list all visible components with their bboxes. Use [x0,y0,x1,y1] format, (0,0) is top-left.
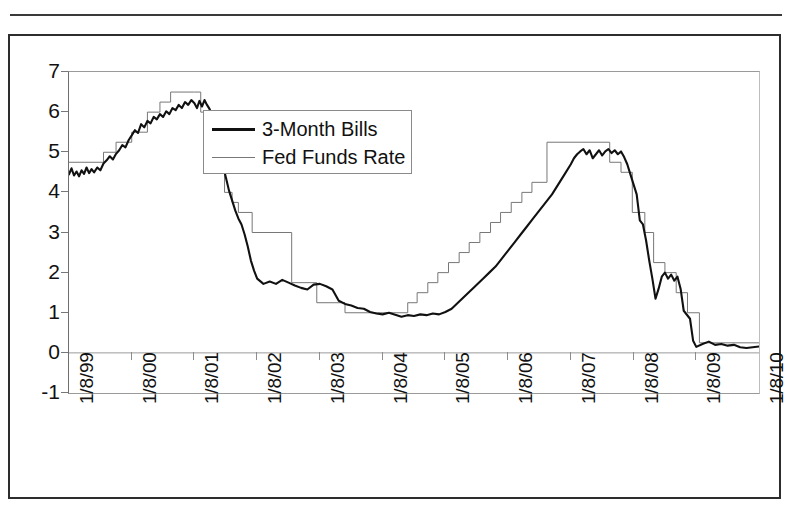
y-axis-tick-mark [61,232,68,233]
legend-line-swatch-icon [212,151,255,163]
y-axis-tick-mark [61,151,68,152]
x-axis-tick-label: 1/8/04 [390,352,412,404]
x-axis-tick-mark [633,352,634,360]
y-axis-tick-mark [61,392,68,393]
x-axis-tick-mark [256,352,257,360]
y-axis-tick-label: 0 [16,341,60,362]
x-axis-tick-label: 1/8/99 [76,352,98,404]
chart-legend: 3-Month Bills Fed Funds Rate [203,110,412,174]
plot-wrapper: 76543210-1 1/8/991/8/001/8/011/8/021/8/0… [10,36,783,501]
x-axis-tick-label: 1/8/02 [264,352,286,404]
x-axis-tick-label: 1/8/05 [452,352,474,404]
legend-item-0: 3-Month Bills [212,115,411,143]
x-axis-tick-mark [695,352,696,360]
y-axis-tick-mark [61,191,68,192]
x-axis-tick-mark [570,352,571,360]
y-axis-tick-label: 6 [16,100,60,121]
series-line-fed-funds-rate [69,92,759,343]
y-axis-tick-mark [61,312,68,313]
legend-label: Fed Funds Rate [262,147,405,167]
x-axis-tick-mark [131,352,132,360]
y-axis-tick-mark [61,71,68,72]
x-axis-tick-mark [507,352,508,360]
legend-item-1: Fed Funds Rate [212,143,411,171]
x-axis-tick-mark [193,352,194,360]
y-axis-tick-label: 7 [16,60,60,81]
y-axis-tick-label: 1 [16,301,60,322]
x-axis-tick-mark [382,352,383,360]
x-axis-tick-label: 1/8/01 [201,352,223,404]
x-axis-tick-label: 1/8/09 [703,352,725,404]
legend-label: 3-Month Bills [262,119,378,139]
caption-divider-rule [10,14,782,16]
y-axis-tick-label: 3 [16,221,60,242]
x-axis-tick-label: 1/8/10 [766,352,788,404]
legend-line-swatch-icon [212,123,255,135]
y-axis-tick-label: 5 [16,140,60,161]
x-axis-tick-label: 1/8/06 [515,352,537,404]
plot-area [68,71,760,394]
series-canvas [69,72,759,393]
x-axis-tick-mark [444,352,445,360]
y-axis-tick-label: 2 [16,261,60,282]
x-axis-tick-label: 1/8/07 [578,352,600,404]
x-axis-tick-label: 1/8/03 [327,352,349,404]
x-axis-tick-mark [319,352,320,360]
y-axis-tick-mark [61,111,68,112]
series-line-3-month-bills [69,100,759,348]
x-axis-tick-label: 1/8/08 [641,352,663,404]
y-axis-tick-label: 4 [16,180,60,201]
y-axis-tick-mark [61,352,68,353]
figure-frame: 76543210-1 1/8/991/8/001/8/011/8/021/8/0… [8,34,781,499]
y-axis-tick-mark [61,272,68,273]
x-axis-tick-label: 1/8/00 [139,352,161,404]
y-axis-tick-label: -1 [16,381,60,402]
